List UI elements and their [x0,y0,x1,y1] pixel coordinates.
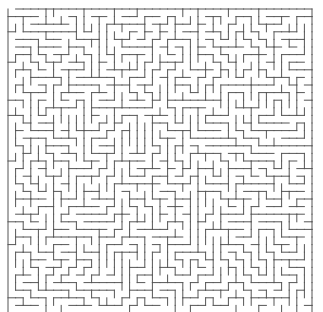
maze-board [0,0,323,312]
